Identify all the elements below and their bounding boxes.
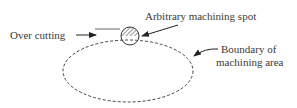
machining-area-boundary — [63, 40, 193, 102]
boundary-label-line2: machining area — [216, 56, 284, 68]
boundary-label-line1: Boundary of — [221, 43, 276, 55]
boundary-arrow — [194, 49, 218, 56]
spot-label: Arbitrary machining spot — [145, 10, 256, 22]
spot-arrow — [142, 25, 178, 36]
over-cutting-label: Over cutting — [10, 29, 65, 41]
